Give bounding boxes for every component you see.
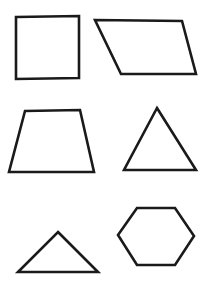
square-shape [16, 16, 79, 79]
trapezoid-shape [9, 110, 94, 172]
shapes-canvas [0, 0, 206, 297]
shapes-worksheet-page [0, 0, 206, 297]
